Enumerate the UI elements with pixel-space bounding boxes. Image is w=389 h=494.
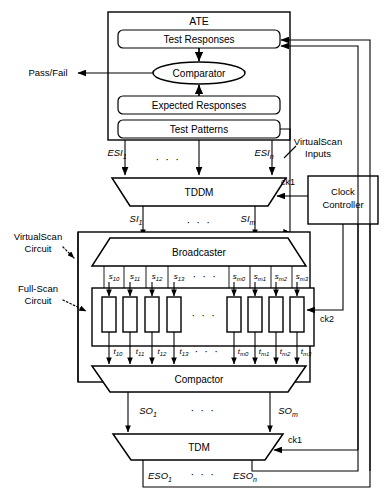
- scan-cell: [248, 297, 262, 332]
- pass-fail-label: Pass/Fail: [28, 67, 67, 78]
- so-1-label: SO1: [139, 405, 157, 418]
- scan-cell: [102, 297, 116, 332]
- virtualscan-inputs-to-broadcaster: [285, 223, 290, 232]
- scan-cell: [269, 297, 283, 332]
- t-ellipsis: · · ·: [194, 345, 219, 357]
- si-1-label: SI1: [130, 213, 143, 226]
- fullscan-circuit-label-2: Circuit: [25, 295, 52, 306]
- esi-n-label: ESIn: [254, 147, 273, 160]
- ck2-label: ck2: [320, 314, 334, 324]
- scan-cell: [227, 297, 241, 332]
- ck1-top-label: ck1: [281, 177, 295, 187]
- ck1-bottom-label: ck1: [288, 435, 302, 445]
- broadcaster-label: Broadcaster: [172, 247, 227, 258]
- test-responses-label: Test Responses: [163, 34, 234, 45]
- eso-ellipsis: · · ·: [190, 468, 215, 480]
- ate-label: ATE: [189, 15, 209, 27]
- virtualscan-inputs-label-2: Inputs: [305, 148, 331, 159]
- virtualscan-inputs-label-1: VirtualScan: [294, 136, 342, 147]
- tddm-label: TDDM: [185, 187, 214, 198]
- eso-n-label: ESOn: [233, 470, 257, 483]
- clock-controller-label-1: Clock: [331, 186, 355, 197]
- scan-cell: [145, 297, 159, 332]
- expected-responses-label: Expected Responses: [152, 100, 247, 111]
- si-m-label: SIm: [241, 213, 256, 226]
- scan-cell: [123, 297, 137, 332]
- so-ellipsis: · · ·: [190, 404, 215, 416]
- comparator-label: Comparator: [173, 68, 226, 79]
- virtualscan-circuit-label-2: Circuit: [25, 243, 52, 254]
- scan-cell: [290, 297, 304, 332]
- esi-ellipsis: · · ·: [155, 153, 180, 165]
- so-m-label: SOm: [278, 405, 298, 418]
- virtualscan-circuit-label-1: VirtualScan: [14, 231, 62, 242]
- virtualscan-circuit-leader: [63, 247, 74, 258]
- scan-cells-ellipsis: · · ·: [191, 309, 216, 321]
- scan-cell: [167, 297, 181, 332]
- test-patterns-label: Test Patterns: [170, 124, 228, 135]
- si-ellipsis: · · ·: [186, 216, 211, 228]
- ck2-route: [311, 224, 343, 310]
- s-ellipsis: · · ·: [192, 270, 217, 282]
- compactor-label: Compactor: [175, 374, 225, 385]
- eso-1-label: ESO1: [148, 470, 172, 483]
- clock-controller-label-2: Controller: [322, 199, 363, 210]
- esi-1-label: ESI1: [107, 147, 126, 160]
- virtualscan-architecture-diagram: ATE Test Responses Comparator Expected R…: [0, 0, 389, 494]
- fullscan-circuit-label-1: Full-Scan: [18, 283, 58, 294]
- tdm-label: TDM: [188, 442, 210, 453]
